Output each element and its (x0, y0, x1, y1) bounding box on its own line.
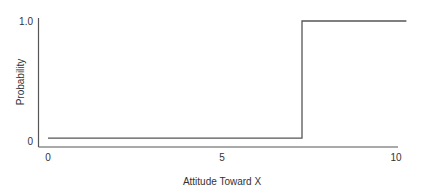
chart: 051001.0 Probability Attitude Toward X (0, 0, 422, 193)
x-tick-label: 5 (219, 152, 225, 163)
x-axis-label: Attitude Toward X (183, 176, 262, 187)
series-line-probability (48, 21, 406, 138)
x-tick-label: 0 (45, 152, 51, 163)
x-tick-label: 10 (390, 152, 402, 163)
y-tick-label: 1.0 (19, 16, 33, 27)
y-tick-label: 0 (27, 136, 33, 147)
y-axis-label: Probability (15, 59, 26, 106)
